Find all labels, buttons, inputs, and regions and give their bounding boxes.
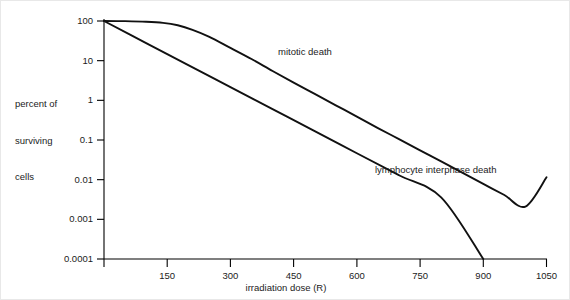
- x-tick-label-600: 600: [337, 270, 377, 282]
- curve-label-mitotic-death: mitotic death: [278, 46, 332, 58]
- y-tick-label-0.1: 0.1: [53, 134, 93, 146]
- y-tick-label-100: 100: [53, 15, 93, 27]
- y-tick-label-0.001: 0.001: [53, 213, 93, 225]
- x-tick-label-750: 750: [400, 270, 440, 282]
- x-axis-title: irradiation dose (R): [1, 282, 570, 294]
- y-tick-label-10: 10: [53, 55, 93, 67]
- y-tick-marks: [97, 21, 104, 259]
- x-tick-label-900: 900: [463, 270, 503, 282]
- x-tick-marks: [104, 259, 547, 267]
- y-tick-label-0.01: 0.01: [53, 174, 93, 186]
- x-tick-label-450: 450: [274, 270, 314, 282]
- curve-label-lymphocyte-interphase-death: lymphocyte interphase death: [375, 164, 496, 176]
- x-tick-label-1050: 1050: [527, 270, 567, 282]
- y-tick-label-0.0001: 0.0001: [47, 253, 93, 265]
- y-tick-label-1: 1: [53, 94, 93, 106]
- x-tick-label-300: 300: [210, 270, 250, 282]
- x-tick-label-150: 150: [147, 270, 187, 282]
- chart-figure: percent of surviving cells 100 10 1 0.1 …: [0, 0, 570, 300]
